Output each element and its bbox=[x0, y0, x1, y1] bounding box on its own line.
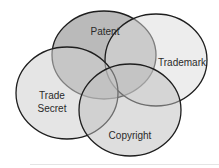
copyright-label: Copyright bbox=[105, 130, 155, 142]
trade-secret-label-line2: Secret bbox=[30, 103, 74, 115]
copyright-ellipse bbox=[79, 64, 181, 156]
bottom-divider bbox=[30, 164, 219, 165]
patent-label: Patent bbox=[80, 26, 130, 38]
trademark-label: Trademark bbox=[156, 57, 208, 69]
trade-secret-label-line1: Trade bbox=[30, 90, 74, 102]
